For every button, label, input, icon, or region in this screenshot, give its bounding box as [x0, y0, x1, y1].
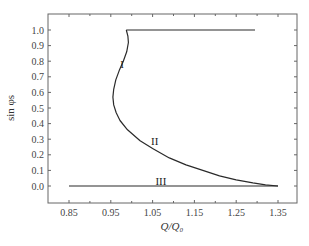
x-tick-label: 1.05: [144, 207, 162, 218]
curve-I-II: [113, 30, 278, 186]
x-tick-label: 1.35: [269, 207, 287, 218]
y-tick-label: 0.9: [32, 40, 45, 51]
x-tick-label: 0.95: [102, 207, 120, 218]
y-tick-label: 0.2: [32, 149, 45, 160]
x-tick-label: 0.85: [60, 207, 78, 218]
x-tick-label: 1.25: [227, 207, 245, 218]
y-tick-label: 0.6: [32, 87, 45, 98]
x-tick-label: 1.15: [186, 207, 204, 218]
y-tick-label: 0.1: [32, 165, 45, 176]
x-axis-label: Q/Q₀: [161, 220, 184, 232]
y-tick-label: 1.0: [32, 25, 45, 36]
plot-frame: [48, 14, 297, 203]
y-axis-label: sin φs: [4, 95, 16, 121]
curve-label: II: [151, 135, 159, 147]
curve-labels: IIIIII: [120, 58, 167, 187]
axis-ticks: 0.850.951.051.151.251.350.00.10.20.30.40…: [32, 14, 298, 218]
curves: [69, 30, 278, 186]
y-tick-label: 0.4: [32, 118, 45, 129]
y-tick-label: 0.3: [32, 134, 45, 145]
curve-label: III: [155, 175, 166, 187]
y-tick-label: 0.8: [32, 56, 45, 67]
curve-label: I: [120, 58, 124, 70]
chart: 0.850.951.051.151.251.350.00.10.20.30.40…: [0, 0, 309, 246]
y-tick-label: 0.0: [32, 181, 45, 192]
y-tick-label: 0.5: [32, 103, 45, 114]
y-tick-label: 0.7: [32, 71, 45, 82]
